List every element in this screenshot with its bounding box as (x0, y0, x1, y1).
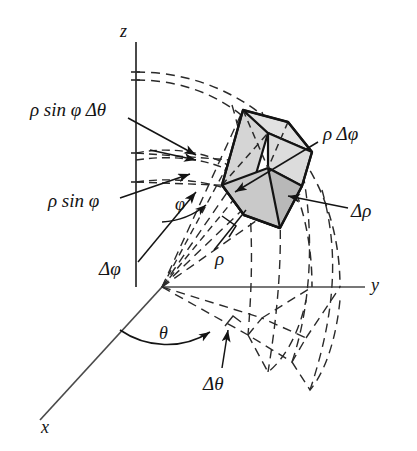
leader-rho (214, 210, 246, 250)
label-rho: ρ (215, 249, 224, 268)
x-axis (40, 287, 162, 420)
label-phi: φ (175, 195, 185, 213)
right-angle-phi (222, 216, 236, 237)
leader-dphi (138, 192, 196, 262)
label-theta: θ (159, 324, 168, 342)
cone-circle-upper-outer (136, 158, 236, 175)
theta-edge-a (162, 287, 248, 335)
leader-dtheta (222, 330, 228, 368)
right-angle-marks (222, 216, 236, 237)
label-y-axis: y (371, 276, 379, 294)
label-dphi: Δφ (99, 259, 121, 278)
longitude-arc-far (310, 190, 333, 390)
label-dtheta: Δθ (203, 374, 223, 393)
label-drho: Δρ (351, 201, 371, 220)
theta-wedge-projection (162, 287, 262, 335)
xy-projection-box (248, 287, 340, 390)
projection-far-edge2 (248, 300, 306, 372)
projection-far-edge (292, 300, 340, 390)
label-rho-dphi: ρ Δφ (323, 124, 358, 143)
spherical-coordinates-diagram: ρ sin φ Δθ ρ sin φ ρ Δφ Δρ φ Δφ ρ θ Δθ z… (0, 0, 417, 451)
label-x-axis: x (41, 418, 49, 436)
right-angle-theta (225, 316, 241, 326)
label-rho-sin-phi: ρ sin φ (48, 191, 99, 210)
label-z-axis: z (120, 22, 127, 40)
volume-element (222, 110, 312, 228)
leader-drho (288, 196, 348, 208)
label-rho-sin-phi-dtheta: ρ sin φ Δθ (30, 100, 106, 119)
projection-outline (248, 318, 306, 362)
theta-edge-b (162, 287, 262, 318)
